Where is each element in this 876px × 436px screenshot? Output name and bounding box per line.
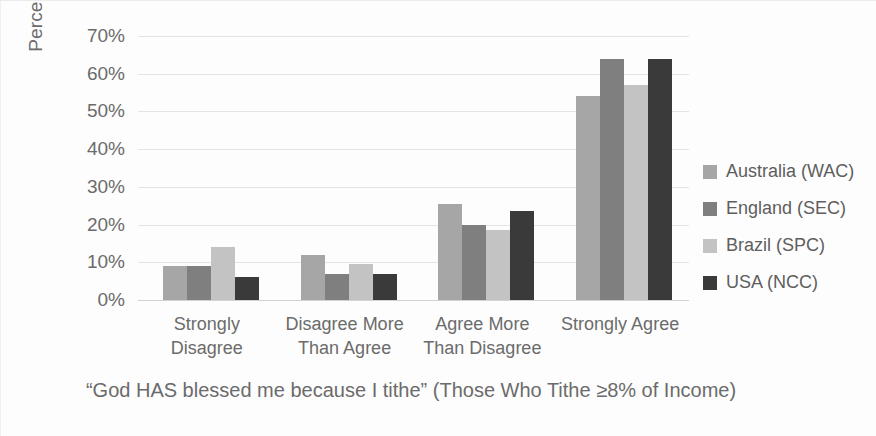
x-axis-category-label: Agree More Than Disagree [414,312,552,360]
x-axis-line [138,300,689,301]
bar[interactable] [373,274,397,300]
legend-swatch-icon [703,165,717,179]
x-axis-category-label: Strongly Agree [551,312,689,336]
bar[interactable] [576,96,600,300]
bar-chart: Percent of Respodents 70%60%50%40%30%20%… [0,0,876,436]
y-axis-tick-label: 50% [87,100,125,122]
legend-item[interactable]: USA (NCC) [703,264,873,301]
bar[interactable] [187,266,211,300]
bar-group [301,36,397,300]
bar[interactable] [438,204,462,300]
y-axis-tick-label: 30% [87,176,125,198]
chart-title: “God HAS blessed me because I tithe” (Th… [1,379,821,402]
legend-swatch-icon [703,239,717,253]
bar[interactable] [486,230,510,300]
bar[interactable] [648,59,672,300]
legend-item[interactable]: England (SEC) [703,190,873,227]
bar-group [163,36,259,300]
legend-item[interactable]: Australia (WAC) [703,153,873,190]
bar[interactable] [163,266,187,300]
legend-swatch-icon [703,202,717,216]
chart-legend: Australia (WAC)England (SEC)Brazil (SPC)… [703,153,873,301]
y-axis-tick-label: 60% [87,63,125,85]
legend-label: Australia (WAC) [726,161,854,182]
bar[interactable] [462,225,486,300]
bar[interactable] [325,274,349,300]
legend-swatch-icon [703,276,717,290]
legend-label: Brazil (SPC) [726,235,825,256]
x-axis-category-label: Strongly Disagree [138,312,276,360]
y-axis-tick-label: 0% [98,289,125,311]
x-axis-category-label: Disagree More Than Agree [276,312,414,360]
bar[interactable] [211,247,235,300]
bar[interactable] [600,59,624,300]
bar[interactable] [624,85,648,300]
y-axis-tick-label: 40% [87,138,125,160]
bar[interactable] [301,255,325,300]
legend-label: USA (NCC) [726,272,818,293]
legend-item[interactable]: Brazil (SPC) [703,227,873,264]
y-axis-tick-label: 20% [87,214,125,236]
y-axis-title: Percent of Respodents [23,0,49,79]
bar-group [438,36,534,300]
bar[interactable] [235,277,259,300]
bar-group [576,36,672,300]
y-axis-tick-label: 10% [87,251,125,273]
bar[interactable] [349,264,373,300]
bar[interactable] [510,211,534,300]
legend-label: England (SEC) [726,198,846,219]
y-axis-tick-label: 70% [87,25,125,47]
plot-area: 70%60%50%40%30%20%10%0%Strongly Disagree… [138,36,689,300]
